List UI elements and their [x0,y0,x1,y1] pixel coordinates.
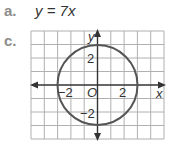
coordinate-graph: y x 2 −2 O 2 −2 [0,0,175,152]
origin-label: O [87,85,97,100]
x-tick-2: 2 [119,85,126,100]
y-axis-down-arrow-icon [94,133,101,141]
x-tick-neg2: −2 [58,85,73,100]
y-axis-up-arrow-icon [94,29,101,37]
y-tick-neg2: −2 [80,106,95,121]
x-axis-label: x [155,86,163,101]
y-tick-2: 2 [87,51,94,66]
